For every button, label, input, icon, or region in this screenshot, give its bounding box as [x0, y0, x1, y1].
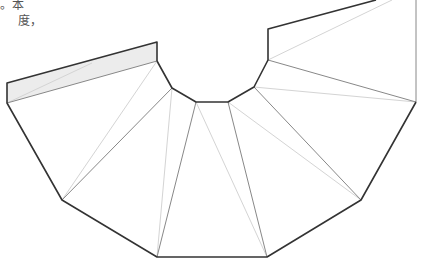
- light-fold-lines: [7, 0, 416, 257]
- cone-net-diagram: [0, 0, 424, 266]
- outline: [7, 0, 416, 257]
- fold-lines: [7, 0, 416, 257]
